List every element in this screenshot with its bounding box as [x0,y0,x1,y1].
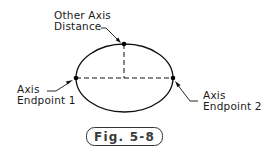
endpoint-1-leader [47,80,73,91]
endpoint-2-leader [175,81,198,101]
other-axis-leader [101,28,121,43]
other-axis-distance-point [122,42,127,47]
ellipse-diagram: Other Axis Distance Axis Endpoint 1 Axis… [0,0,273,154]
endpoint-1-label-line2: Endpoint 1 [17,94,76,106]
figure-label: Fig. 5-8 [87,128,163,146]
axis-endpoint-2-point [171,76,176,81]
axis-endpoint-1-point [74,76,79,81]
endpoint-2-label-line2: Endpoint 2 [203,100,262,112]
arrowhead-icon [175,81,181,87]
figure-label-text: Fig. 5-8 [94,130,155,144]
other-axis-label-line2: Distance [54,20,102,32]
